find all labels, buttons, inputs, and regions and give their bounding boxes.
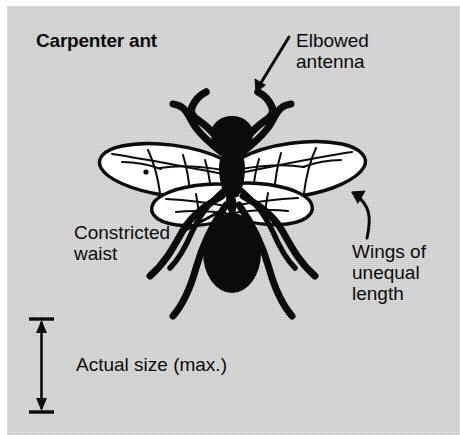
label-wings-unequal: Wings of unequal length bbox=[352, 241, 426, 304]
label-elbowed-antenna: Elbowed antenna bbox=[296, 30, 369, 72]
scale-bar bbox=[29, 319, 54, 412]
thorax bbox=[219, 149, 245, 197]
label-constricted-waist: Constricted waist bbox=[74, 222, 170, 264]
label-actual-size: Actual size (max.) bbox=[76, 354, 227, 375]
constricted-waist-petiole bbox=[228, 196, 237, 213]
head bbox=[212, 117, 252, 152]
carpenter-ant-illustration bbox=[0, 0, 460, 435]
abdomen-gaster bbox=[203, 213, 261, 293]
leader-elbowed-antenna bbox=[255, 37, 289, 92]
page-title: Carpenter ant bbox=[36, 30, 157, 52]
leader-wings-unequal bbox=[352, 191, 369, 238]
illustration-figure: Carpenter ant Elbowed antenna Constricte… bbox=[0, 0, 460, 435]
wing-spot-left bbox=[143, 169, 148, 174]
